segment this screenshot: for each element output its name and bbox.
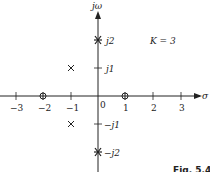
tick-label-neg1: −1 [66, 103, 79, 113]
tick-label-neg3: −3 [10, 103, 24, 113]
tick-label-neg2: −2 [38, 103, 51, 113]
pole-marker [68, 65, 74, 71]
arrow-up-icon [95, 11, 101, 19]
tick-label-j2: j2 [104, 36, 115, 46]
real-axis [0, 93, 202, 99]
tick-label-0: 0 [100, 100, 106, 110]
imaginary-axis [95, 11, 101, 172]
tick-label-3: 3 [179, 103, 185, 113]
imag-axis-label: jω [90, 1, 103, 11]
figure-caption: Fig. 5.4 [173, 165, 210, 172]
gain-annotation: K = 3 [149, 36, 176, 46]
tick-label-neg-j1: −j1 [104, 120, 120, 130]
tick-label-2: 2 [151, 103, 157, 113]
pole-marker [68, 121, 74, 127]
s-plane-diagram: jω σ −3 −2 −1 0 1 2 3 j2 j1 −j1 −j2 K = … [0, 0, 210, 172]
tick-label-j1: j1 [104, 64, 115, 74]
tick-label-neg-j2: −j2 [104, 148, 120, 158]
arrow-right-icon [194, 93, 202, 99]
tick-label-1: 1 [123, 103, 129, 113]
real-axis-label: σ [202, 91, 209, 101]
